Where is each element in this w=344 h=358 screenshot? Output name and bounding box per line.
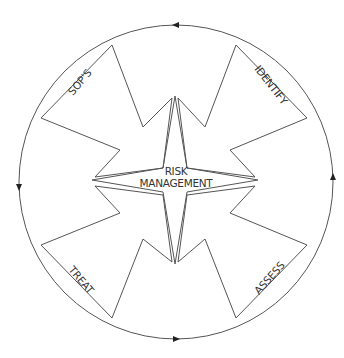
stage-arrow-treat — [41, 186, 172, 318]
stage-label-assess: ASSESS — [252, 259, 288, 297]
stage-arrow-identify — [178, 45, 307, 177]
center-title-line1: RISK — [165, 165, 189, 177]
stage-label-treat: TREAT — [66, 263, 97, 297]
cycle-arrow-top-icon — [172, 22, 179, 28]
stage-arrow-sops — [41, 45, 172, 177]
stage-arrow-assess — [178, 186, 307, 318]
cycle-arrow-bottom-icon — [173, 336, 180, 342]
center-title-line2: MANAGEMENT — [140, 177, 214, 189]
cycle-arrow-right-icon — [330, 173, 336, 180]
cycle-arrow-left-icon — [16, 184, 22, 191]
risk-management-cycle-diagram: SOP'S IDENTIFY TREAT ASSESS RISK MANAGEM… — [0, 0, 344, 358]
stage-label-sops: SOP'S — [65, 66, 94, 97]
